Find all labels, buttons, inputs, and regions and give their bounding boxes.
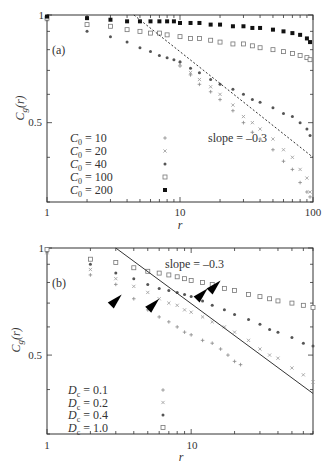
panel-b-xtick-1: 1 bbox=[44, 439, 50, 451]
legend-marker-icon bbox=[163, 136, 167, 140]
legend-entry: Dc = 1.0 bbox=[67, 421, 108, 437]
panel-b-ylabel: Cg(r) bbox=[9, 327, 25, 352]
legend-marker-icon bbox=[161, 388, 165, 392]
legend-marker-icon bbox=[163, 149, 166, 152]
panel-a-xtick-1: 1 bbox=[44, 206, 50, 218]
legend-marker-icon bbox=[161, 401, 164, 404]
panel-b-tag: (b) bbox=[52, 276, 66, 290]
panel-a-xlabel: r bbox=[178, 218, 183, 232]
legend-marker-icon bbox=[163, 188, 167, 192]
svg-text:Cg(r): Cg(r) bbox=[9, 327, 25, 352]
panel-b-xlabel: r bbox=[179, 450, 184, 464]
panel-a: (a) slope = –0.3 1 0.5 1 10 100 r Cg(r) … bbox=[13, 9, 322, 232]
panel-a-legend: C0 = 10C0 = 20C0 = 40C0 = 100C0 = 200 bbox=[70, 131, 167, 199]
legend-marker-icon bbox=[162, 414, 165, 417]
panel-b-arrows bbox=[108, 281, 221, 313]
legend-marker-icon bbox=[161, 426, 165, 430]
arrow-marker bbox=[145, 299, 159, 313]
panel-a-ylabel: Cg(r) bbox=[13, 95, 29, 120]
legend-marker-icon bbox=[164, 163, 167, 166]
panel-b-xtick-10: 10 bbox=[187, 439, 199, 451]
legend-entry: C0 = 200 bbox=[70, 183, 113, 199]
panel-a-tag: (a) bbox=[52, 43, 65, 57]
panel-a-xtick-10: 10 bbox=[175, 206, 187, 218]
panel-a-ytick-05: 0.5 bbox=[28, 116, 42, 128]
panel-a-xtick-100: 100 bbox=[305, 206, 322, 218]
panel-a-ytick-1: 1 bbox=[39, 9, 45, 21]
arrow-marker bbox=[194, 288, 208, 302]
legend-marker-icon bbox=[163, 175, 167, 179]
figure: (a) slope = –0.3 1 0.5 1 10 100 r Cg(r) … bbox=[0, 0, 328, 467]
panel-b-ytick-1: 1 bbox=[39, 242, 45, 254]
svg-text:Cg(r): Cg(r) bbox=[13, 95, 29, 120]
arrow-marker bbox=[108, 295, 122, 309]
panel-b-slope-annotation: slope = –0.3 bbox=[165, 257, 224, 271]
panel-b-ytick-05: 0.5 bbox=[28, 349, 42, 361]
panel-b: (b) slope = –0.3 1 0.5 1 10 r Cg(r) Dc =… bbox=[9, 242, 315, 464]
panel-b-legend: Dc = 0.1Dc = 0.2Dc = 0.4Dc = 1.0 bbox=[67, 383, 165, 437]
panel-a-slope-annotation: slope = –0.3 bbox=[208, 131, 267, 145]
